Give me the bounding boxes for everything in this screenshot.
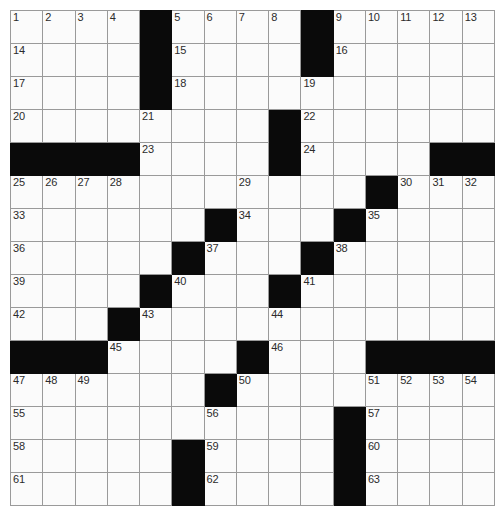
crossword-cell[interactable]	[204, 308, 236, 341]
crossword-cell[interactable]	[43, 473, 75, 506]
crossword-cell[interactable]: 22	[301, 110, 333, 143]
crossword-cell[interactable]: 16	[333, 44, 365, 77]
crossword-cell[interactable]	[269, 44, 301, 77]
crossword-cell[interactable]	[333, 341, 365, 374]
crossword-cell[interactable]	[365, 308, 397, 341]
crossword-cell[interactable]: 12	[430, 11, 462, 44]
crossword-cell[interactable]	[365, 77, 397, 110]
crossword-cell[interactable]	[333, 176, 365, 209]
crossword-cell[interactable]	[301, 407, 333, 440]
crossword-cell[interactable]	[462, 209, 494, 242]
crossword-cell[interactable]	[462, 44, 494, 77]
crossword-cell[interactable]	[43, 110, 75, 143]
crossword-cell[interactable]: 60	[365, 440, 397, 473]
crossword-grid[interactable]: 1234567891011121314151617181920212223242…	[10, 10, 495, 506]
crossword-cell[interactable]: 59	[204, 440, 236, 473]
crossword-cell[interactable]: 46	[269, 341, 301, 374]
crossword-cell[interactable]	[269, 374, 301, 407]
crossword-cell[interactable]	[462, 407, 494, 440]
crossword-cell[interactable]: 50	[236, 374, 268, 407]
crossword-cell[interactable]	[236, 440, 268, 473]
crossword-cell[interactable]	[398, 110, 430, 143]
crossword-cell[interactable]	[43, 77, 75, 110]
crossword-cell[interactable]	[269, 242, 301, 275]
crossword-cell[interactable]: 31	[430, 176, 462, 209]
crossword-cell[interactable]: 9	[333, 11, 365, 44]
crossword-cell[interactable]	[236, 407, 268, 440]
crossword-cell[interactable]	[269, 407, 301, 440]
crossword-cell[interactable]	[333, 77, 365, 110]
crossword-cell[interactable]	[462, 473, 494, 506]
crossword-cell[interactable]	[333, 308, 365, 341]
crossword-cell[interactable]: 39	[11, 275, 43, 308]
crossword-cell[interactable]: 25	[11, 176, 43, 209]
crossword-cell[interactable]: 62	[204, 473, 236, 506]
crossword-cell[interactable]: 18	[172, 77, 204, 110]
crossword-cell[interactable]	[269, 209, 301, 242]
crossword-cell[interactable]	[301, 473, 333, 506]
crossword-cell[interactable]: 20	[11, 110, 43, 143]
crossword-cell[interactable]	[398, 473, 430, 506]
crossword-cell[interactable]	[430, 473, 462, 506]
crossword-cell[interactable]	[43, 440, 75, 473]
crossword-cell[interactable]	[107, 440, 139, 473]
crossword-cell[interactable]: 36	[11, 242, 43, 275]
crossword-cell[interactable]	[75, 242, 107, 275]
crossword-cell[interactable]: 38	[333, 242, 365, 275]
crossword-cell[interactable]	[107, 209, 139, 242]
crossword-cell[interactable]	[75, 440, 107, 473]
crossword-cell[interactable]	[204, 341, 236, 374]
crossword-cell[interactable]	[462, 440, 494, 473]
crossword-cell[interactable]: 24	[301, 143, 333, 176]
crossword-cell[interactable]: 53	[430, 374, 462, 407]
crossword-cell[interactable]	[236, 44, 268, 77]
crossword-cell[interactable]	[204, 176, 236, 209]
crossword-cell[interactable]	[140, 209, 172, 242]
crossword-cell[interactable]	[75, 473, 107, 506]
crossword-cell[interactable]	[301, 176, 333, 209]
crossword-cell[interactable]: 47	[11, 374, 43, 407]
crossword-cell[interactable]	[430, 77, 462, 110]
crossword-cell[interactable]	[398, 44, 430, 77]
crossword-cell[interactable]	[140, 374, 172, 407]
crossword-cell[interactable]	[75, 275, 107, 308]
crossword-cell[interactable]	[107, 77, 139, 110]
crossword-cell[interactable]	[107, 407, 139, 440]
crossword-cell[interactable]	[301, 440, 333, 473]
crossword-cell[interactable]: 42	[11, 308, 43, 341]
crossword-cell[interactable]	[398, 209, 430, 242]
crossword-cell[interactable]	[333, 275, 365, 308]
crossword-cell[interactable]	[333, 374, 365, 407]
crossword-cell[interactable]	[43, 242, 75, 275]
crossword-cell[interactable]	[365, 44, 397, 77]
crossword-cell[interactable]	[398, 77, 430, 110]
crossword-cell[interactable]	[462, 308, 494, 341]
crossword-cell[interactable]	[462, 110, 494, 143]
crossword-cell[interactable]: 57	[365, 407, 397, 440]
crossword-cell[interactable]	[140, 473, 172, 506]
crossword-cell[interactable]: 21	[140, 110, 172, 143]
crossword-cell[interactable]	[398, 143, 430, 176]
crossword-cell[interactable]	[75, 308, 107, 341]
crossword-cell[interactable]	[269, 440, 301, 473]
crossword-cell[interactable]: 4	[107, 11, 139, 44]
crossword-cell[interactable]	[140, 407, 172, 440]
crossword-cell[interactable]	[236, 143, 268, 176]
crossword-cell[interactable]: 61	[11, 473, 43, 506]
crossword-cell[interactable]	[75, 110, 107, 143]
crossword-cell[interactable]	[430, 242, 462, 275]
crossword-cell[interactable]	[269, 473, 301, 506]
crossword-cell[interactable]	[301, 341, 333, 374]
crossword-cell[interactable]	[430, 44, 462, 77]
crossword-cell[interactable]	[398, 407, 430, 440]
crossword-cell[interactable]: 5	[172, 11, 204, 44]
crossword-cell[interactable]: 48	[43, 374, 75, 407]
crossword-cell[interactable]: 27	[75, 176, 107, 209]
crossword-cell[interactable]: 11	[398, 11, 430, 44]
crossword-cell[interactable]	[430, 440, 462, 473]
crossword-cell[interactable]	[462, 77, 494, 110]
crossword-cell[interactable]	[172, 110, 204, 143]
crossword-cell[interactable]	[43, 44, 75, 77]
crossword-cell[interactable]	[172, 407, 204, 440]
crossword-cell[interactable]	[204, 275, 236, 308]
